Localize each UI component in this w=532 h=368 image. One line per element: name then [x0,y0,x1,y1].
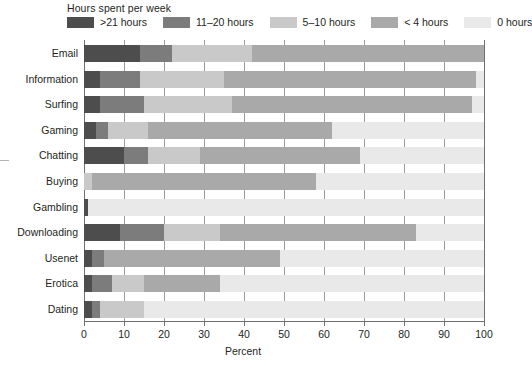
x-axis-tick-label: 70 [344,328,384,340]
y-axis-category-labels: EmailInformationSurfingGamingChattingBuy… [0,40,78,321]
bar-segment [220,224,416,241]
bar-segment [220,275,484,292]
x-axis-tick-labels: 0102030405060708090100 [0,328,486,342]
bar-segment [252,45,484,62]
bar-segment [92,301,100,318]
bar-segment [200,147,360,164]
x-axis-tick [244,321,245,326]
x-axis-tick [364,321,365,326]
bar-segment [120,224,164,241]
x-axis-tick [484,321,485,326]
bar-segment [92,275,112,292]
x-axis-tick [84,321,85,326]
bar-segment [84,71,100,88]
bar-segment [164,224,220,241]
bar-segment [104,250,280,267]
y-axis-label: Gambling [0,202,78,213]
x-axis-tick-label: 40 [224,328,264,340]
x-axis-ticks [84,321,485,327]
bar-segment [92,250,104,267]
bar-segment [100,71,140,88]
bar-segment [148,147,200,164]
x-axis-tick-label: 100 [464,328,504,340]
bar-row [84,45,484,62]
legend: Hours spent per week >21 hours 11–20 hou… [66,2,484,28]
x-axis-tick-label: 10 [104,328,144,340]
bar-segment [108,122,148,139]
bar-segment [144,301,484,318]
x-axis-tick-label: 90 [424,328,464,340]
bar-segment [84,96,100,113]
bar-segment [476,71,484,88]
legend-label-21-plus-hours: >21 hours [100,17,147,28]
bar-segment [112,275,144,292]
bar-segment [84,147,124,164]
x-axis-tick [204,321,205,326]
y-axis-label: Gaming [0,125,78,136]
x-axis-title: Percent [0,345,486,357]
bar-row [84,147,484,164]
x-axis-tick [324,321,325,326]
x-axis-tick [164,321,165,326]
bar-row [84,71,484,88]
y-axis-label: Buying [0,176,78,187]
gridline-100 [484,40,485,321]
bar-segment [92,173,316,190]
bar-row [84,173,484,190]
legend-item-21-plus-hours: >21 hours [67,17,147,28]
bar-segment [332,122,484,139]
bar-segment [316,173,484,190]
legend-title: Hours spent per week [67,2,484,14]
y-axis-label: Chatting [0,150,78,161]
x-axis-tick-label: 20 [144,328,184,340]
legend-label-0-hours: 0 hours [497,17,532,28]
bar-segment [96,122,108,139]
bar-segment [84,122,96,139]
x-axis-tick-label: 0 [64,328,104,340]
legend-label-11-20-hours: 11–20 hours [196,17,254,28]
bar-segment [84,173,92,190]
x-axis-tick [124,321,125,326]
y-axis-label: Erotica [0,278,78,289]
y-axis-label: Email [0,48,78,59]
y-axis-label: Dating [0,304,78,315]
bar-row [84,224,484,241]
bar-segment [148,122,332,139]
legend-item-11-20-hours: 11–20 hours [163,17,254,28]
bar-row [84,275,484,292]
bar-row [84,96,484,113]
legend-item-under-4-hours: < 4 hours [371,17,448,28]
bar-segment [84,275,92,292]
x-axis-tick [284,321,285,326]
legend-swatch-21-plus-hours [67,17,94,28]
bar-segment [124,147,148,164]
bar-segment [232,96,472,113]
y-axis-label: Surfing [0,99,78,110]
x-axis-tick [444,321,445,326]
bar-segment [416,224,484,241]
bar-row [84,122,484,139]
stacked-bars [84,40,484,321]
legend-swatch-under-4-hours [371,17,398,28]
bar-segment [472,96,484,113]
y-axis-label: Usenet [0,253,78,264]
bar-segment [280,250,484,267]
x-axis-tick [404,321,405,326]
bar-segment [172,45,252,62]
legend-label-under-4-hours: < 4 hours [404,17,448,28]
legend-item-5-10-hours: 5–10 hours [270,17,356,28]
x-axis-tick-label: 50 [264,328,304,340]
legend-label-5-10-hours: 5–10 hours [303,17,356,28]
legend-swatch-0-hours [464,17,491,28]
x-axis-tick-label: 80 [384,328,424,340]
bar-segment [84,250,92,267]
bar-segment [144,275,220,292]
bar-segment [100,96,144,113]
bar-segment [140,45,172,62]
bar-segment [360,147,484,164]
x-axis-tick-label: 60 [304,328,344,340]
bar-segment [84,45,140,62]
bar-segment [88,199,484,216]
y-axis-label: Downloading [0,227,78,238]
legend-item-0-hours: 0 hours [464,17,532,28]
